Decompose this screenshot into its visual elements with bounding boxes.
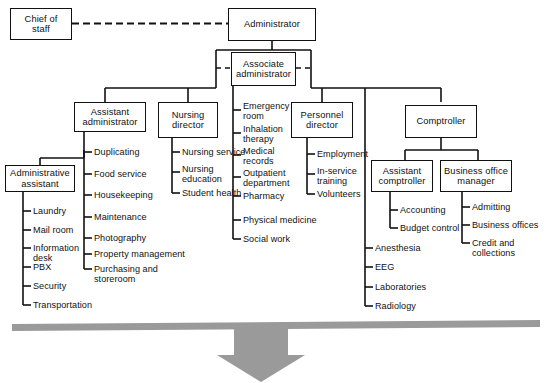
leaf-item: Emergency room [243, 101, 289, 122]
leaf-item: Admitting [472, 202, 510, 212]
leaf-item: Purchasing and storeroom [94, 264, 158, 285]
node-personnel-director-label: Personnel director [301, 110, 344, 131]
node-business-office-manager[interactable]: Business office manager [440, 160, 512, 192]
leaf-item: Laundry [33, 206, 66, 216]
node-comptroller[interactable]: Comptroller [405, 105, 477, 138]
leaf-item: Student health [182, 188, 241, 198]
leaf-item: Pharmacy [243, 191, 284, 201]
leaf-item: Radiology [375, 301, 416, 311]
leaf-item: EEG [375, 262, 394, 272]
node-associate-administrator-label: Associate administrator [236, 59, 291, 80]
node-administrative-assistant[interactable]: Administrative assistant [5, 165, 75, 192]
leaf-item: Anesthesia [375, 243, 421, 253]
node-business-office-manager-label: Business office manager [444, 166, 508, 187]
leaf-item: Social work [243, 234, 290, 244]
node-assistant-comptroller[interactable]: Assistant comptroller [371, 160, 433, 192]
node-administrator[interactable]: Administrator [228, 8, 316, 41]
leaf-item: Credit and collections [472, 238, 548, 259]
org-chart: Chief of staff Administrator Associate a… [0, 0, 548, 383]
leaf-item: Employment [317, 149, 368, 159]
leaf-item: Volunteers [317, 189, 360, 199]
leaf-item: Business offices [472, 220, 538, 230]
leaf-item: Accounting [400, 205, 446, 215]
leaf-item: Nursing education [182, 164, 222, 185]
leaf-item: Outpatient department [243, 168, 290, 189]
leaf-item: Budget control [400, 223, 459, 233]
leaf-item: Photography [94, 233, 146, 243]
leaf-item: Mail room [33, 225, 73, 235]
leaf-item: Security [33, 281, 66, 291]
node-assistant-comptroller-label: Assistant comptroller [378, 166, 425, 187]
node-assistant-administrator[interactable]: Assistant administrator [74, 102, 146, 132]
leaf-item: Physical medicine [243, 215, 317, 225]
node-chief-of-staff-label: Chief of staff [25, 14, 58, 35]
leaf-item: In-service training [317, 166, 357, 187]
leaf-item: Housekeeping [94, 190, 153, 200]
node-comptroller-label: Comptroller [416, 116, 465, 126]
leaf-item: Property management [94, 249, 185, 259]
node-administrator-label: Administrator [244, 19, 300, 29]
leaf-item: Information desk [33, 243, 79, 264]
leaf-item: Duplicating [94, 147, 140, 157]
node-associate-administrator[interactable]: Associate administrator [231, 52, 296, 86]
node-personnel-director[interactable]: Personnel director [291, 102, 353, 138]
node-nursing-director-label: Nursing director [172, 110, 205, 131]
leaf-item: Laboratories [375, 282, 426, 292]
node-administrative-assistant-label: Administrative assistant [10, 168, 70, 189]
node-assistant-administrator-label: Assistant administrator [82, 107, 137, 128]
leaf-item: PBX [33, 262, 51, 272]
leaf-item: Nursing service [182, 147, 245, 157]
leaf-item: Food service [94, 169, 147, 179]
node-nursing-director[interactable]: Nursing director [158, 102, 218, 138]
leaf-item: Maintenance [94, 212, 147, 222]
bottom-gray-bar-and-arrow [12, 320, 540, 382]
leaf-item: Medical records [243, 146, 275, 167]
leaf-item: Inhalation therapy [243, 124, 283, 145]
node-chief-of-staff[interactable]: Chief of staff [10, 8, 72, 40]
leaf-item: Transportation [33, 300, 92, 310]
